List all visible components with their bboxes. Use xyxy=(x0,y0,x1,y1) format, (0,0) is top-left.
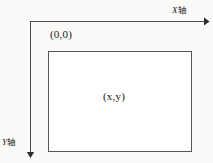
y-axis-group xyxy=(27,21,34,158)
y-axis-label: Y轴 xyxy=(2,138,16,147)
point-coordinate-label: (x,y) xyxy=(103,91,125,102)
arrow-down-icon xyxy=(27,152,34,158)
x-axis-label-cjk: 轴 xyxy=(178,5,187,15)
origin-label: (0,0) xyxy=(50,29,72,40)
x-axis-group xyxy=(30,18,210,26)
y-axis-label-cjk: 轴 xyxy=(7,137,16,147)
arrow-right-icon xyxy=(204,18,210,26)
coordinate-diagram: X轴 Y轴 (0,0) (x,y) xyxy=(0,0,213,163)
diagram-canvas xyxy=(0,0,213,163)
x-axis-label: X轴 xyxy=(172,6,187,15)
